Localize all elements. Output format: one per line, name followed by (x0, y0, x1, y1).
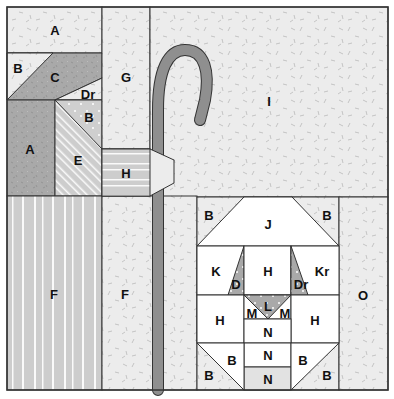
label-b-mid: B (84, 110, 93, 125)
label-o: O (358, 288, 368, 303)
label-e: E (74, 153, 83, 168)
label-f-mid: F (121, 287, 129, 302)
label-a-left: A (25, 142, 35, 157)
label-b-left: B (13, 61, 22, 76)
label-dr-sheep: Dr (294, 277, 308, 292)
label-h-arm: H (121, 166, 130, 181)
piece-f-mid (102, 196, 197, 390)
label-f-left: F (50, 287, 58, 302)
label-d: D (231, 277, 240, 292)
label-b-leg-left-top: B (227, 353, 236, 368)
lower-left-block (7, 196, 197, 390)
label-b-leg-left-bot: B (204, 368, 213, 383)
label-n-2: N (263, 348, 272, 363)
label-c: C (50, 70, 60, 85)
label-k: K (211, 264, 221, 279)
label-n-3: N (263, 372, 272, 387)
label-g: G (121, 70, 131, 85)
label-n-1: N (263, 325, 272, 340)
label-dr-top: Dr (81, 87, 95, 102)
label-m-right: M (280, 306, 291, 321)
label-m-left: M (247, 306, 258, 321)
label-b-sheep-tr: B (322, 208, 331, 223)
label-b-leg-right-top: B (298, 353, 307, 368)
upper-left-block (7, 7, 388, 197)
label-h-head: H (263, 264, 272, 279)
arm-h (102, 149, 174, 196)
label-j: J (264, 217, 271, 232)
label-h-body-left: H (215, 313, 224, 328)
label-h-body-right: H (310, 313, 319, 328)
quilt-diagram: A B C Dr B A E G H I F F J B B K D H Dr … (0, 0, 394, 399)
label-l: L (264, 299, 272, 314)
label-i: I (267, 94, 271, 109)
label-b-sheep-tl: B (204, 208, 213, 223)
label-b-leg-right-bot: B (322, 368, 331, 383)
label-kr: Kr (315, 264, 329, 279)
label-a-top: A (50, 23, 60, 38)
